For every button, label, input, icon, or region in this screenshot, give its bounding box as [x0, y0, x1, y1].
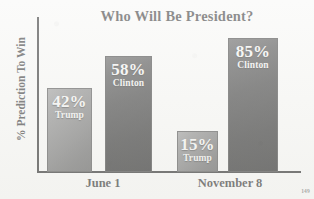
bar-label-group: 58% Clinton	[106, 61, 151, 89]
y-axis-title: % Prediction To Win	[15, 14, 27, 164]
plot-area: 42% Trump 58% Clinton 15% Trump 85% Clin…	[0, 0, 314, 199]
bar-label-group: 15% Trump	[178, 136, 217, 164]
bar-value-label: 42%	[48, 93, 91, 110]
page-number: 149	[301, 188, 310, 194]
bar-candidate-label: Trump	[48, 111, 91, 121]
chart-title: Who Will Be President?	[52, 8, 302, 25]
bar-november8-clinton: 85% Clinton	[228, 38, 278, 172]
chart-figure: Who Will Be President? % Prediction To W…	[0, 0, 314, 199]
bar-value-label: 15%	[178, 136, 217, 153]
bar-candidate-label: Clinton	[106, 79, 151, 89]
x-axis-tick-november-8: November 8	[175, 176, 285, 191]
bar-candidate-label: Clinton	[229, 61, 277, 71]
bar-june1-trump: 42% Trump	[47, 88, 92, 172]
x-axis-tick-june-1: June 1	[48, 176, 158, 191]
bar-value-label: 85%	[229, 43, 277, 60]
bar-november8-trump: 15% Trump	[177, 131, 218, 172]
bar-candidate-label: Trump	[178, 154, 217, 164]
bar-label-group: 42% Trump	[48, 93, 91, 121]
bar-value-label: 58%	[106, 61, 151, 78]
bar-june1-clinton: 58% Clinton	[105, 56, 152, 172]
bar-label-group: 85% Clinton	[229, 43, 277, 71]
